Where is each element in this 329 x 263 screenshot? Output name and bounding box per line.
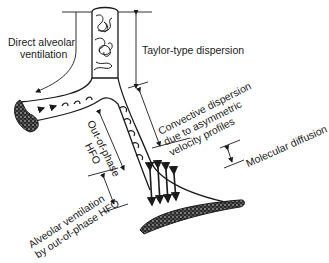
- airway-walls: [20, 78, 240, 205]
- label-line: Direct alveolar: [8, 36, 75, 48]
- label-taylor-dispersion: Taylor-type dispersion: [142, 44, 244, 56]
- trachea-tube: [92, 8, 118, 79]
- oscillation-arrows: [150, 168, 176, 205]
- label-line: ventilation: [8, 48, 75, 60]
- upper-alveolus: [15, 100, 39, 132]
- lower-alveolus: [140, 200, 245, 234]
- label-direct-alveolar-ventilation: Direct alveolar ventilation: [8, 36, 75, 60]
